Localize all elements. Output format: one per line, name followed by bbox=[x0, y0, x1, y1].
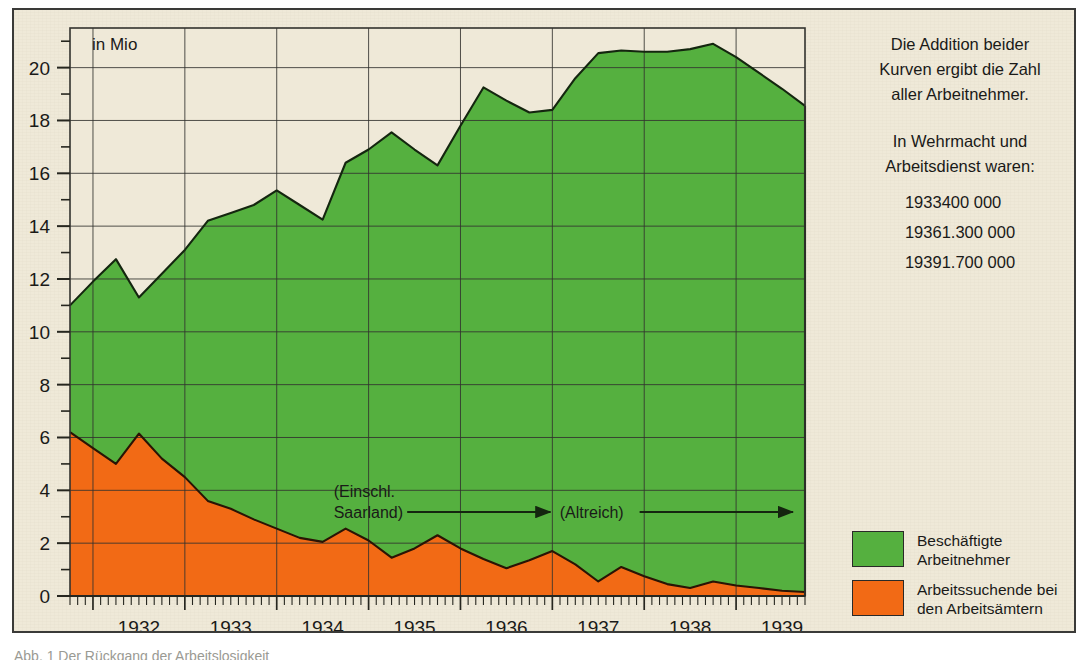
legend-label-line: den Arbeitsämtern bbox=[917, 599, 1057, 618]
side-note-line: In Wehrmacht und bbox=[846, 129, 1074, 154]
y-axis-tick-label: 20 bbox=[29, 58, 50, 79]
y-axis-tick-label: 0 bbox=[39, 586, 50, 607]
x-axis-tick-label: 1932 bbox=[118, 617, 160, 631]
legend-label-line: Beschäftigte bbox=[917, 531, 1010, 550]
side-note-paragraph-1: Die Addition beider Kurven ergibt die Za… bbox=[846, 32, 1074, 107]
x-axis-ticks bbox=[70, 596, 805, 610]
annotation-altreich: (Altreich) bbox=[560, 504, 624, 521]
legend-item-beschaeftigte: Beschäftigte Arbeitnehmer bbox=[852, 531, 1078, 569]
x-axis-tick-label: 1939 bbox=[761, 617, 803, 631]
fact-value: 400 000 bbox=[942, 187, 1015, 217]
x-axis-tick-label: 1936 bbox=[485, 617, 527, 631]
legend-label-orange: Arbeitssuchende bei den Arbeitsämtern bbox=[917, 580, 1057, 618]
annotation-einschl-saarland-line1: (Einschl. bbox=[334, 483, 395, 500]
table-row: 1936 1.300 000 bbox=[905, 217, 1015, 247]
side-note-line: Arbeitsdienst waren: bbox=[846, 154, 1074, 179]
side-note-paragraph-2: In Wehrmacht und Arbeitsdienst waren: bbox=[846, 129, 1074, 179]
side-note-line: Die Addition beider bbox=[846, 32, 1074, 57]
legend-label-line: Arbeitssuchende bei bbox=[917, 580, 1057, 599]
y-axis-ticks bbox=[57, 41, 70, 596]
x-axis-tick-label: 1937 bbox=[577, 617, 619, 631]
figure-frame: 02468101214161820 1932193319341935193619… bbox=[12, 8, 1076, 633]
y-axis-tick-label: 4 bbox=[39, 480, 50, 501]
fact-value: 1.700 000 bbox=[942, 247, 1015, 277]
y-axis-tick-label: 2 bbox=[39, 533, 50, 554]
side-note-panel: Die Addition beider Kurven ergibt die Za… bbox=[846, 32, 1074, 277]
fact-year: 1933 bbox=[905, 187, 942, 217]
side-note-line: Kurven ergibt die Zahl bbox=[846, 57, 1074, 82]
table-row: 1933 400 000 bbox=[905, 187, 1015, 217]
y-axis-tick-label: 6 bbox=[39, 427, 50, 448]
fact-value: 1.300 000 bbox=[942, 217, 1015, 247]
legend-swatch-green bbox=[852, 531, 904, 567]
x-axis-tick-label: 1938 bbox=[669, 617, 711, 631]
legend-swatch-orange bbox=[852, 580, 904, 616]
wehrmacht-figures-table: 1933 400 000 1936 1.300 000 1939 1.700 0… bbox=[905, 187, 1015, 277]
y-axis-tick-label: 10 bbox=[29, 322, 50, 343]
table-row: 1939 1.700 000 bbox=[905, 247, 1015, 277]
y-axis-tick-label: 16 bbox=[29, 163, 50, 184]
annotation-einschl-saarland-line2: Saarland) bbox=[334, 504, 403, 521]
y-axis-tick-label: 8 bbox=[39, 375, 50, 396]
fact-year: 1936 bbox=[905, 217, 942, 247]
chart-legend: Beschäftigte Arbeitnehmer Arbeitssuchend… bbox=[852, 531, 1078, 629]
x-axis-tick-labels: 19321933193419351936193719381939 bbox=[118, 617, 803, 631]
legend-item-arbeitssuchende: Arbeitssuchende bei den Arbeitsämtern bbox=[852, 580, 1078, 618]
y-axis-tick-labels: 02468101214161820 bbox=[29, 58, 51, 607]
legend-label-green: Beschäftigte Arbeitnehmer bbox=[917, 531, 1010, 569]
x-axis-tick-label: 1934 bbox=[302, 617, 345, 631]
fact-year: 1939 bbox=[905, 247, 942, 277]
y-axis-tick-label: 14 bbox=[29, 216, 51, 237]
figure-caption: Abb. 1 Der Rückgang der Arbeitslosigkeit bbox=[14, 648, 714, 660]
y-axis-tick-label: 18 bbox=[29, 110, 50, 131]
y-axis-tick-label: 12 bbox=[29, 269, 50, 290]
screenshot-page: 02468101214161820 1932193319341935193619… bbox=[0, 0, 1088, 660]
unit-label: in Mio bbox=[92, 35, 137, 54]
side-note-line: aller Arbeitnehmer. bbox=[846, 82, 1074, 107]
x-axis-tick-label: 1935 bbox=[393, 617, 435, 631]
x-axis-tick-label: 1933 bbox=[210, 617, 252, 631]
legend-label-line: Arbeitnehmer bbox=[917, 550, 1010, 569]
